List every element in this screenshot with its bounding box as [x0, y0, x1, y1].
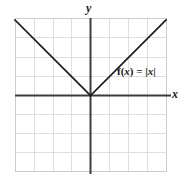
function-label-middle: ) = |: [130, 65, 148, 77]
function-label-suffix: |: [153, 65, 155, 77]
x-axis-label: x: [172, 88, 178, 100]
graph-canvas: [0, 0, 186, 180]
y-axis-label: y: [86, 2, 91, 14]
function-equation-label: f(x) = |x|: [117, 66, 156, 77]
absolute-value-function-graph: y x f(x) = |x|: [0, 0, 186, 180]
